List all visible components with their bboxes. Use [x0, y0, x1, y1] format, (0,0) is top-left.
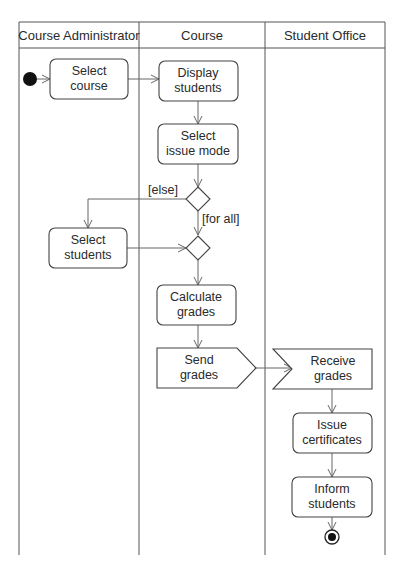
svg-text:grades: grades — [314, 369, 352, 383]
lane-header-course-administrator: Course Administrator — [18, 28, 140, 43]
svg-text:Inform: Inform — [314, 482, 349, 496]
svg-text:grades: grades — [177, 305, 215, 319]
lane-header-student-office: Student Office — [284, 28, 366, 43]
guard-for-all: [for all] — [202, 212, 240, 226]
svg-text:course: course — [70, 79, 108, 93]
svg-text:Select: Select — [72, 64, 107, 78]
action-select-students: Select students — [49, 228, 127, 268]
action-calculate-grades: Calculate grades — [157, 285, 236, 325]
action-select-issue-mode: Select issue mode — [158, 124, 238, 164]
guard-else: [else] — [148, 183, 178, 197]
svg-text:Receive: Receive — [310, 354, 355, 368]
svg-text:Issue: Issue — [317, 418, 347, 432]
merge-node — [186, 236, 210, 260]
svg-text:Calculate: Calculate — [170, 290, 222, 304]
svg-text:certificates: certificates — [302, 433, 362, 447]
svg-text:Send: Send — [184, 353, 213, 367]
svg-text:issue mode: issue mode — [166, 144, 230, 158]
action-issue-certificates: Issue certificates — [293, 413, 372, 453]
accept-event-receive-grades: Receive grades — [273, 349, 372, 389]
action-inform-students: Inform students — [292, 477, 372, 517]
action-select-course: Select course — [50, 59, 128, 99]
svg-text:Select: Select — [71, 233, 106, 247]
activity-diagram: Course Administrator Course Student Offi… — [0, 0, 402, 572]
svg-text:students: students — [308, 497, 355, 511]
initial-node — [23, 72, 37, 86]
lane-header-course: Course — [181, 28, 223, 43]
svg-text:Display: Display — [178, 66, 220, 80]
send-signal-send-grades: Send grades — [157, 348, 256, 388]
decision-node — [186, 187, 210, 211]
action-display-students: Display students — [159, 61, 238, 101]
svg-text:Select: Select — [181, 129, 216, 143]
edge-decision-select-students — [88, 199, 186, 228]
final-node — [325, 530, 339, 544]
svg-text:grades: grades — [180, 368, 218, 382]
svg-text:students: students — [64, 248, 111, 262]
svg-text:students: students — [174, 81, 221, 95]
